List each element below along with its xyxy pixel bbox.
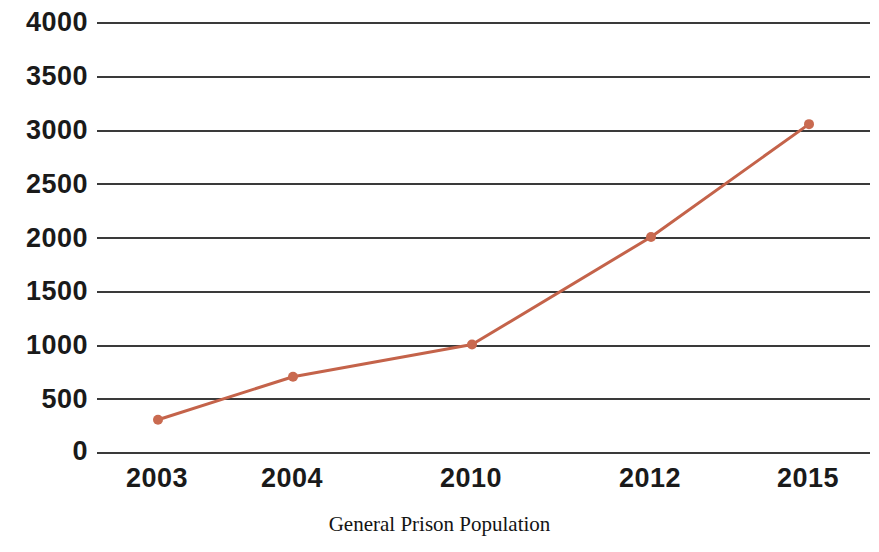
y-tick-label: 2500 xyxy=(0,171,88,198)
y-tick-label: 4000 xyxy=(0,9,88,36)
x-tick-label-2015: 2015 xyxy=(777,463,839,493)
x-tick-label-2004: 2004 xyxy=(261,463,323,493)
data-point-2015 xyxy=(804,119,814,129)
plot-area xyxy=(97,22,870,452)
x-tick-label-2012: 2012 xyxy=(619,463,681,493)
y-axis: 4000 3500 3000 2500 2000 1500 1000 500 0 xyxy=(0,0,88,552)
y-tick-label: 500 xyxy=(0,386,88,413)
x-tick-label-2010: 2010 xyxy=(440,463,502,493)
y-tick-label: 2000 xyxy=(0,225,88,252)
data-point-2010 xyxy=(467,340,477,350)
x-axis: 2003 2004 2010 2012 2015 xyxy=(97,463,870,499)
line-chart: 4000 3500 3000 2500 2000 1500 1000 500 0… xyxy=(0,0,879,552)
y-tick-label: 0 xyxy=(0,438,88,465)
y-tick-label: 1000 xyxy=(0,332,88,359)
data-point-2012 xyxy=(646,232,656,242)
data-point-2003 xyxy=(153,415,163,425)
y-tick-label: 3000 xyxy=(0,117,88,144)
data-point-2004 xyxy=(288,372,298,382)
x-axis-title: General Prison Population xyxy=(0,512,879,536)
y-tick-label: 1500 xyxy=(0,278,88,305)
series-general-prison-population xyxy=(97,22,870,452)
series-line xyxy=(158,124,809,420)
gridline-0-baseline xyxy=(97,452,870,454)
series-markers xyxy=(153,119,814,425)
y-tick-label: 3500 xyxy=(0,63,88,90)
x-tick-label-2003: 2003 xyxy=(126,463,188,493)
